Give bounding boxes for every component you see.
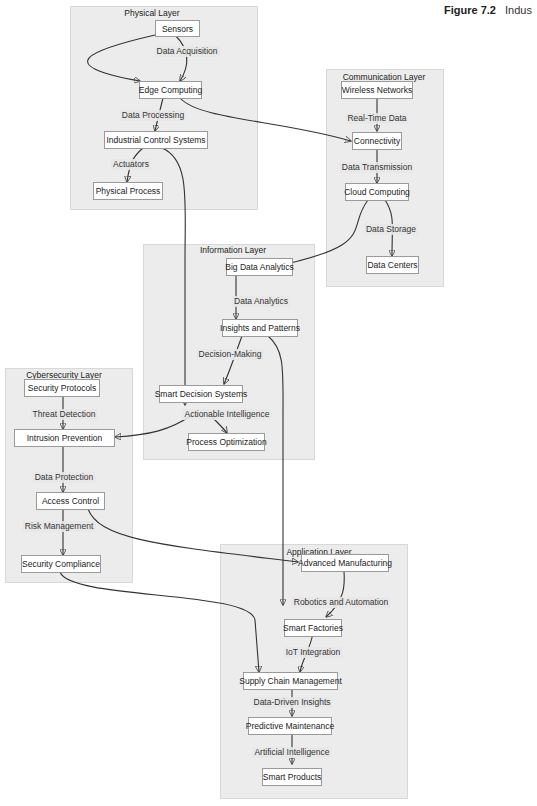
node-insights-and-patterns[interactable]: Insights and Patterns (222, 319, 298, 337)
node-cloud-computing[interactable]: Cloud Computing (345, 183, 409, 201)
node-security-compliance[interactable]: Security Compliance (21, 555, 101, 573)
node-smart-decision-systems[interactable]: Smart Decision Systems (159, 385, 243, 403)
edge-label-data-analytics: Data Analytics (232, 296, 290, 307)
edge-label-data-transmission: Data Transmission (340, 162, 414, 173)
edge-label-iot-integration: IoT Integration (284, 647, 343, 658)
cluster-title-information: Information Layer (200, 245, 266, 255)
node-supply-chain-management[interactable]: Supply Chain Management (243, 672, 338, 690)
cluster-title-physical: Physical Layer (124, 8, 179, 18)
edge-label-actionable-intelligence: Actionable Intelligence (182, 409, 271, 420)
node-intrusion-prevention[interactable]: Intrusion Prevention (14, 429, 115, 447)
node-wireless-networks[interactable]: Wireless Networks (341, 81, 413, 99)
figure-number: Figure 7.2 (444, 4, 496, 16)
edge-label-robotics-automation: Robotics and Automation (292, 597, 391, 608)
node-advanced-manufacturing[interactable]: Advanced Manufacturing (301, 554, 389, 572)
node-access-control[interactable]: Access Control (36, 492, 105, 510)
node-connectivity[interactable]: Connectivity (352, 132, 402, 150)
node-data-centers[interactable]: Data Centers (366, 256, 419, 274)
edge-label-risk-management: Risk Management (23, 521, 96, 532)
node-smart-products[interactable]: Smart Products (262, 768, 322, 786)
edge-label-real-time-data: Real-Time Data (345, 113, 408, 124)
node-edge-computing[interactable]: Edge Computing (139, 81, 202, 99)
edge-label-data-storage: Data Storage (364, 224, 418, 235)
edge-label-actuators: Actuators (111, 159, 151, 170)
node-predictive-maintenance[interactable]: Predictive Maintenance (248, 717, 332, 735)
figure-caption: Figure 7.2Indus (444, 4, 532, 16)
edge-label-threat-detection: Threat Detection (31, 409, 98, 420)
node-physical-process[interactable]: Physical Process (93, 182, 163, 200)
cluster-communication-layer (326, 69, 444, 287)
edge-label-data-protection: Data Protection (33, 472, 96, 483)
edge-label-data-driven-insights: Data-Driven Insights (251, 697, 332, 708)
node-industrial-control-systems[interactable]: Industrial Control Systems (104, 131, 208, 149)
edge-label-decision-making: Decision-Making (197, 349, 264, 360)
node-security-protocols[interactable]: Security Protocols (24, 379, 100, 397)
node-smart-factories[interactable]: Smart Factories (284, 619, 342, 637)
edge-label-artificial-intelligence: Artificial Intelligence (252, 747, 331, 758)
edge-label-data-processing: Data Processing (120, 110, 186, 121)
node-big-data-analytics[interactable]: Big Data Analytics (226, 258, 293, 276)
edge-label-data-acquisition: Data Acquisition (155, 46, 220, 57)
node-sensors[interactable]: Sensors (155, 20, 200, 37)
node-process-optimization[interactable]: Process Optimization (188, 433, 265, 451)
figure-title: Indus (505, 4, 532, 16)
